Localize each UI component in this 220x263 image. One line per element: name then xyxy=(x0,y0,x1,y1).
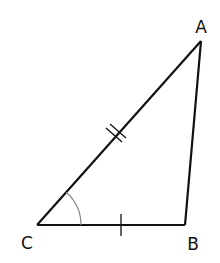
triangle-diagram: A B C xyxy=(0,0,220,263)
side-ba xyxy=(185,41,201,225)
vertex-label-c: C xyxy=(21,233,33,253)
tick-marks-ca xyxy=(106,124,126,142)
vertex-label-b: B xyxy=(187,234,199,254)
vertex-label-a: A xyxy=(195,17,207,37)
angle-arc-c xyxy=(66,192,81,225)
side-ca xyxy=(37,41,201,225)
